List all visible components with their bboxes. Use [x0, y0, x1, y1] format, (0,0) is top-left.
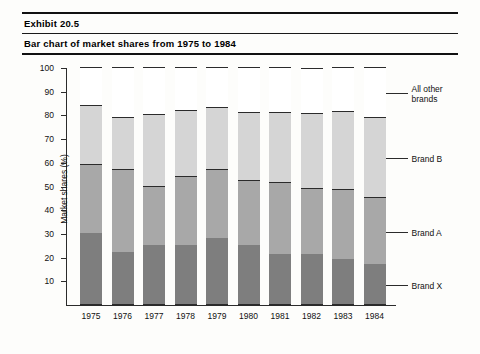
- bar-segment-brand-b[interactable]: [143, 114, 165, 185]
- header-rule-bottom: [22, 53, 458, 55]
- legend-label-brand-a: Brand A: [412, 228, 442, 238]
- y-axis-tick-label: 90: [45, 87, 54, 97]
- bar-segment-brand-b[interactable]: [175, 110, 197, 176]
- bar-segment-brand-x[interactable]: [112, 252, 134, 304]
- bar-segment-brand-x[interactable]: [332, 259, 354, 304]
- y-axis-tick: 90: [61, 92, 66, 93]
- legend-label-brand-b: Brand B: [412, 154, 443, 164]
- bar-segment-brand-x[interactable]: [238, 245, 260, 304]
- legend-leader-line: [386, 93, 408, 94]
- bar-segment-brand-b[interactable]: [364, 117, 386, 198]
- y-axis-tick: 60: [61, 163, 66, 164]
- bar-segment-brand-a[interactable]: [175, 176, 197, 245]
- y-axis-tick: 30: [61, 234, 66, 235]
- bar-segment-brand-b[interactable]: [332, 111, 354, 189]
- exhibit-title: Bar chart of market shares from 1975 to …: [22, 34, 458, 53]
- bar-segment-brand-x[interactable]: [301, 254, 323, 304]
- bar-segment-brand-a[interactable]: [332, 189, 354, 259]
- bar-segment-brand-a[interactable]: [238, 180, 260, 245]
- bar-1981[interactable]: [269, 68, 291, 305]
- legend-leader-line: [386, 232, 408, 233]
- bar-segment-brand-a[interactable]: [269, 182, 291, 254]
- bar-1984[interactable]: [364, 68, 386, 305]
- x-axis-tick-label: 1984: [355, 311, 395, 321]
- bar-1979[interactable]: [206, 68, 228, 305]
- bar-segment-all-other-brands[interactable]: [332, 67, 354, 111]
- y-axis-tick-label: 40: [45, 205, 54, 215]
- bar-segment-brand-x[interactable]: [364, 264, 386, 304]
- y-axis-tick-label: 20: [45, 253, 54, 263]
- bar-segment-brand-x[interactable]: [206, 238, 228, 304]
- bar-segment-all-other-brands[interactable]: [175, 67, 197, 110]
- y-axis-tick-label: 60: [45, 158, 54, 168]
- bar-segment-brand-a[interactable]: [301, 188, 323, 254]
- exhibit-label: Exhibit 20.5: [22, 14, 458, 33]
- x-axis-line: [66, 305, 396, 306]
- bar-segment-brand-b[interactable]: [238, 112, 260, 180]
- bar-segment-all-other-brands[interactable]: [238, 67, 260, 112]
- bar-segment-brand-a[interactable]: [143, 186, 165, 245]
- bar-segment-brand-b[interactable]: [80, 105, 102, 164]
- plot-region: Market shares (%) 1020304050607080901001…: [66, 62, 396, 311]
- y-axis-tick: 10: [61, 281, 66, 282]
- legend-label-all-other-brands: All other brands: [412, 84, 443, 104]
- bar-segment-brand-b[interactable]: [269, 112, 291, 182]
- y-axis-tick-label: 10: [45, 276, 54, 286]
- bar-segment-brand-b[interactable]: [112, 117, 134, 169]
- bar-1975[interactable]: [80, 68, 102, 305]
- y-axis-tick: 20: [61, 258, 66, 259]
- y-axis-tick-label: 30: [45, 229, 54, 239]
- y-axis-tick-label: 100: [40, 63, 54, 73]
- chart-area: Market shares (%) 1020304050607080901001…: [22, 62, 458, 342]
- y-axis-tick: 40: [61, 210, 66, 211]
- bar-segment-brand-x[interactable]: [143, 245, 165, 304]
- bar-1976[interactable]: [112, 68, 134, 305]
- bar-segment-brand-x[interactable]: [175, 245, 197, 304]
- bar-segment-all-other-brands[interactable]: [301, 68, 323, 113]
- bar-segment-brand-a[interactable]: [80, 164, 102, 233]
- y-axis-title: Market shares (%): [59, 154, 69, 223]
- bar-segment-all-other-brands[interactable]: [143, 67, 165, 114]
- y-axis-tick: 80: [61, 115, 66, 116]
- legend-leader-line: [386, 158, 408, 159]
- y-axis-tick: 100: [61, 68, 66, 69]
- legend-label-brand-x: Brand X: [412, 281, 443, 291]
- bar-segment-all-other-brands[interactable]: [206, 67, 228, 107]
- bar-1982[interactable]: [301, 68, 323, 305]
- y-axis-tick-label: 70: [45, 134, 54, 144]
- bar-segment-all-other-brands[interactable]: [80, 67, 102, 105]
- bar-segment-all-other-brands[interactable]: [364, 67, 386, 117]
- legend-leader-line: [386, 285, 408, 286]
- y-axis-tick: 50: [61, 187, 66, 188]
- bar-segment-brand-a[interactable]: [112, 169, 134, 252]
- bar-1983[interactable]: [332, 68, 354, 305]
- bar-1980[interactable]: [238, 68, 260, 305]
- bar-segment-brand-b[interactable]: [301, 113, 323, 188]
- bar-segment-brand-a[interactable]: [364, 197, 386, 263]
- bar-segment-brand-x[interactable]: [80, 233, 102, 304]
- bar-1978[interactable]: [175, 68, 197, 305]
- y-axis-tick-label: 50: [45, 182, 54, 192]
- bar-segment-all-other-brands[interactable]: [269, 67, 291, 112]
- bar-segment-brand-x[interactable]: [269, 254, 291, 304]
- bar-segment-brand-b[interactable]: [206, 107, 228, 169]
- y-axis-tick-label: 80: [45, 110, 54, 120]
- bar-segment-brand-a[interactable]: [206, 169, 228, 238]
- exhibit-page: Exhibit 20.5 Bar chart of market shares …: [0, 0, 480, 354]
- exhibit-header: Exhibit 20.5 Bar chart of market shares …: [22, 12, 458, 55]
- y-axis-tick: 70: [61, 139, 66, 140]
- bar-1977[interactable]: [143, 68, 165, 305]
- bar-segment-all-other-brands[interactable]: [112, 67, 134, 117]
